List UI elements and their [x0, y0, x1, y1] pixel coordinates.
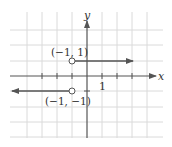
open-circle-lower — [69, 88, 75, 94]
x-axis-label: x — [158, 70, 165, 83]
y-axis-label: y — [83, 9, 91, 22]
open-circle-upper — [69, 58, 75, 64]
point-label-lower: (−1, −1) — [45, 95, 91, 107]
point-label-upper: (−1, 1) — [51, 46, 88, 58]
x-tick-label-1: 1 — [99, 80, 106, 93]
step-function-graph: y x 1 (−1, 1) (−1, −1) — [0, 0, 172, 147]
